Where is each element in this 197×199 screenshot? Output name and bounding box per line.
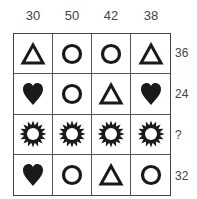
row-sum-3: ? [175,128,182,142]
cell-r2-c1 [14,74,53,114]
column-sum-3: 42 [91,8,131,23]
row-sum-2: 24 [175,87,188,101]
heart-icon [21,81,45,107]
sun-icon [97,120,125,148]
triangle-icon [98,163,124,187]
cell-r1-c2 [53,34,92,74]
cell-r1-c4 [131,34,170,74]
cell-r2-c3 [92,74,131,114]
circle-icon [60,163,84,187]
sun-icon [137,120,165,148]
cell-r3-c3 [92,115,131,155]
column-sum-1: 30 [13,8,53,23]
column-sum-2: 50 [52,8,92,23]
column-sum-4: 38 [131,8,171,23]
cell-r1-c3 [92,34,131,74]
cell-r2-c2 [53,74,92,114]
row-sum-4: 32 [175,169,188,183]
cell-r4-c3 [92,155,131,195]
circle-icon [99,42,123,66]
cell-r4-c4 [131,155,170,195]
puzzle-grid [13,33,171,196]
circle-icon [60,42,84,66]
circle-icon [60,82,84,106]
sun-icon [58,120,86,148]
heart-icon [21,162,45,188]
cell-r3-c2 [53,115,92,155]
triangle-icon [98,82,124,106]
cell-r3-c4 [131,115,170,155]
row-sum-1: 36 [175,46,188,60]
cell-r4-c1 [14,155,53,195]
circle-icon [139,163,163,187]
cell-r4-c2 [53,155,92,195]
cell-r3-c1 [14,115,53,155]
cell-r2-c4 [131,74,170,114]
heart-icon [139,81,163,107]
triangle-icon [138,42,164,66]
triangle-icon [20,42,46,66]
sun-icon [19,120,47,148]
cell-r1-c1 [14,34,53,74]
